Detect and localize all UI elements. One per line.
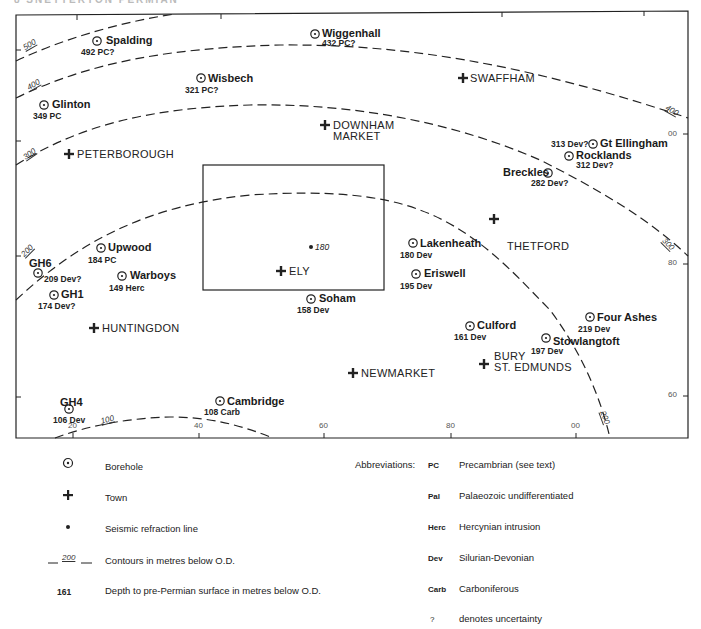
legend: Borehole Town Seismic refraction line 20…	[0, 445, 701, 629]
axis-x-label: 00	[571, 422, 580, 430]
borehole-icon	[311, 30, 319, 38]
abbr-label-dev: Silurian-Devonian	[459, 552, 534, 563]
axis-x-label: 80	[446, 422, 455, 430]
borehole-depth: 432 PC?	[322, 39, 356, 48]
right-ticks	[683, 134, 688, 396]
abbr-key-pc: PC	[428, 461, 439, 470]
borehole-icon	[565, 152, 573, 160]
abbr-key-pal: Pal	[428, 492, 440, 501]
borehole-name: GH4	[60, 397, 83, 408]
borehole-depth: 313 Dev?	[551, 140, 588, 149]
borehole-name: Eriswell	[424, 268, 466, 279]
borehole-depth: 195 Dev	[400, 282, 432, 291]
axis-x-label: 60	[319, 422, 328, 430]
abbr-key-dev: Dev	[428, 554, 443, 563]
contour-400	[16, 45, 688, 118]
borehole-icon	[118, 272, 126, 280]
legend-seismic-label: Seismic refraction line	[105, 523, 198, 534]
legend-contour-value: 200	[62, 553, 75, 562]
axis-x-label: 20	[68, 422, 77, 430]
town-name: HUNTINGDON	[102, 323, 180, 334]
abbr-label-uncertainty: denotes uncertainty	[459, 613, 542, 624]
borehole-name: Lakenheath	[420, 238, 481, 249]
borehole-name: Four Ashes	[597, 312, 657, 323]
borehole-name: Glinton	[52, 99, 91, 110]
abbr-key-uncertainty: ?	[430, 615, 434, 624]
borehole-icon	[412, 270, 420, 278]
borehole-name: GH1	[61, 289, 84, 300]
borehole-icon	[34, 269, 42, 277]
borehole-name: Soham	[319, 293, 356, 304]
borehole-name: Wisbech	[208, 73, 253, 84]
borehole-icon	[97, 244, 105, 252]
town-name: ELY	[289, 266, 310, 277]
legend-town-symbol	[38, 489, 98, 503]
borehole-name: Cambridge	[227, 396, 284, 407]
abbreviations-title: Abbreviations:	[355, 459, 415, 470]
seismic-value: 180	[315, 243, 329, 252]
legend-borehole-label: Borehole	[105, 461, 143, 472]
abbr-label-pc: Precambrian (see text)	[459, 459, 555, 470]
legend-depth-label: Depth to pre-Permian surface in metres b…	[105, 585, 321, 596]
borehole-name: Warboys	[130, 270, 176, 281]
borehole-name: Spalding	[106, 35, 152, 46]
contour-200	[16, 193, 610, 438]
borehole-depth: 282 Dev?	[531, 179, 568, 188]
borehole-depth: 321 PC?	[185, 86, 219, 95]
town-cross-icon	[89, 323, 99, 333]
legend-town-label: Town	[105, 492, 127, 503]
borehole-name: Upwood	[108, 242, 151, 253]
legend-borehole-symbol	[38, 457, 98, 471]
town-cross-icon	[276, 266, 286, 276]
borehole-icon	[197, 74, 205, 82]
borehole-icon	[409, 239, 417, 247]
town-name: NEWMARKET	[361, 368, 435, 379]
borehole-depth: 158 Dev	[297, 306, 329, 315]
legend-depth-symbol: 161	[57, 587, 71, 597]
abbr-label-pal: Palaeozoic undifferentiated	[459, 490, 573, 501]
town-name: THETFORD	[507, 241, 569, 252]
borehole-icon	[542, 334, 550, 342]
town-cross-icon	[479, 359, 489, 369]
borehole-icon	[62, 457, 74, 469]
seismic-dot-icon	[309, 245, 313, 249]
map-area: Spalding492 PC?Wiggenhall432 PC?Wisbech3…	[0, 0, 701, 445]
borehole-depth: 197 Dev	[531, 347, 563, 356]
town-cross-icon	[62, 489, 74, 501]
abbr-key-carb: Carb	[428, 585, 446, 594]
contour-100	[55, 417, 273, 438]
bottom-ticks	[73, 433, 576, 438]
borehole-depth: 174 Dev?	[38, 302, 75, 311]
borehole-depth: 492 PC?	[81, 48, 115, 57]
town-name-line2: MARKET	[333, 131, 381, 142]
borehole-depth: 149 Herc	[109, 284, 144, 293]
abbr-label-herc: Hercynian intrusion	[459, 521, 540, 532]
seismic-dot-icon	[62, 521, 74, 533]
borehole-icon	[93, 37, 101, 45]
borehole-icon	[589, 140, 597, 148]
borehole-name: Breckles	[503, 167, 549, 178]
town-cross-icon	[320, 120, 330, 130]
borehole-depth: 161 Dev	[454, 333, 486, 342]
map-canvas	[0, 0, 701, 445]
borehole-depth: 312 Dev?	[576, 161, 613, 170]
borehole-icon	[466, 322, 474, 330]
borehole-icon	[586, 313, 594, 321]
borehole-depth: 209 Dev?	[44, 275, 81, 284]
town-name: SWAFFHAM	[470, 73, 535, 84]
legend-contour-symbol: 200	[48, 553, 92, 565]
borehole-name: Culford	[477, 320, 516, 331]
town-name-line2: ST. EDMUNDS	[494, 362, 572, 373]
town-cross-icon	[348, 368, 358, 378]
left-ticks	[16, 50, 21, 397]
legend-contour-label: Contours in metres below O.D.	[105, 555, 235, 566]
borehole-depth: 219 Dev	[578, 325, 610, 334]
borehole-depth: 180 Dev	[400, 251, 432, 260]
borehole-name: GH6	[29, 258, 52, 269]
borehole-depth: 184 PC	[88, 256, 116, 265]
borehole-depth: 108 Carb	[204, 408, 240, 417]
axis-x-label: 40	[194, 422, 203, 430]
town-cross-icon	[64, 149, 74, 159]
axis-y-label: 00	[668, 130, 677, 138]
borehole-icon	[216, 397, 224, 405]
